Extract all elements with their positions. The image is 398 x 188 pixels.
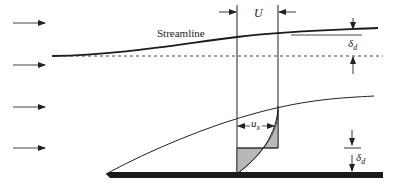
boundary-layer-diagram: Streamline U ux δd δd (0, 0, 398, 188)
displacement-thickness-label-bottom: δd (356, 151, 366, 166)
flat-plate (106, 172, 383, 178)
displacement-thickness-label-top: δd (348, 37, 358, 52)
shaded-deficit-lower (237, 148, 263, 174)
free-stream-velocity-label: U (254, 6, 264, 20)
flow-arrows (13, 23, 45, 148)
shaded-deficit-upper (263, 110, 278, 148)
local-velocity-label: ux (251, 117, 261, 132)
streamline-label: Streamline (157, 27, 205, 39)
streamline-curve (52, 28, 378, 56)
